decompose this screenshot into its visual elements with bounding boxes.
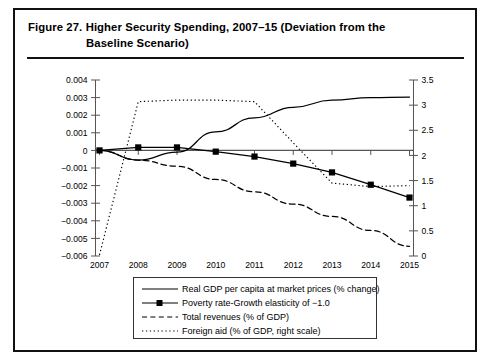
legend-key-dotted-line <box>140 325 180 337</box>
figure-number: Figure 27. <box>28 20 82 36</box>
legend-item-revenues: Total revenues (% of GDP) <box>140 310 376 324</box>
legend-label-foreign-aid: Foreign aid (% of GDP, right scale) <box>182 325 320 337</box>
figure-page: Figure 27. Higher Security Spending, 200… <box>0 0 493 362</box>
legend-label-gdp: Real GDP per capita at market prices (% … <box>182 283 379 295</box>
legend-label-poverty: Poverty rate-Growth elasticity of −1.0 <box>182 297 330 309</box>
figure-title: Figure 27. Higher Security Spending, 200… <box>28 20 458 51</box>
figure-title-line1: Higher Security Spending, 2007–15 (Devia… <box>86 21 386 33</box>
legend-item-foreign-aid: Foreign aid (% of GDP, right scale) <box>140 324 376 338</box>
title-divider <box>27 57 464 59</box>
legend-key-dashed-line <box>140 311 180 323</box>
legend-label-revenues: Total revenues (% of GDP) <box>182 311 289 323</box>
legend-item-poverty: Poverty rate-Growth elasticity of −1.0 <box>140 296 376 310</box>
legend-key-solid-line <box>140 283 180 295</box>
legend-key-solid-line-square-marker <box>140 297 180 309</box>
figure-title-line2: Baseline Scenario) <box>86 36 458 52</box>
chart-legend: Real GDP per capita at market prices (% … <box>133 277 377 339</box>
legend-item-gdp: Real GDP per capita at market prices (% … <box>140 282 376 296</box>
